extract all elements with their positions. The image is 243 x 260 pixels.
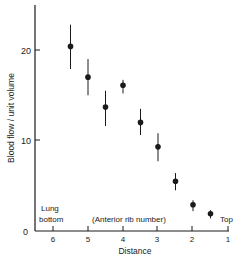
y-axis-label: Blood flow / unit volume: [6, 73, 16, 163]
x-ticks: [53, 226, 228, 231]
data-point: [173, 173, 179, 190]
point-marker: [103, 104, 109, 110]
x-tick-label-2: 2: [190, 235, 195, 244]
lung-bottom-label-line1: Lung: [41, 204, 59, 213]
data-point: [190, 200, 196, 211]
data-point: [68, 25, 74, 69]
lung-bottom-label-line2: bottom: [39, 215, 64, 224]
point-marker: [68, 44, 74, 50]
data-point: [85, 59, 91, 95]
x-tick-label-6: 6: [51, 235, 56, 244]
y-tick-label-20: 20: [21, 46, 31, 56]
blood-flow-chart: 0 10 20 6 5 4 3 2 1 Distance Blood flow …: [0, 0, 243, 260]
y-ticks: [35, 50, 40, 140]
y-tick-label-0: 0: [23, 227, 28, 237]
data-point: [138, 109, 144, 135]
x-tick-label-1: 1: [226, 235, 231, 244]
x-axis-label: Distance: [118, 246, 151, 256]
y-tick-label-10: 10: [21, 136, 31, 146]
data-points: [68, 25, 214, 219]
x-tick-label-3: 3: [155, 235, 160, 244]
x-tick-label-4: 4: [121, 235, 126, 244]
point-marker: [208, 211, 214, 217]
point-marker: [85, 74, 91, 80]
data-point: [155, 133, 161, 161]
point-marker: [190, 202, 196, 208]
lung-top-label: Top: [220, 215, 233, 224]
point-marker: [173, 178, 179, 184]
chart-svg: 0 10 20 6 5 4 3 2 1 Distance Blood flow …: [0, 0, 243, 260]
data-point: [120, 80, 126, 94]
point-marker: [138, 120, 144, 126]
data-point: [103, 91, 109, 126]
data-point: [208, 210, 214, 218]
x-tick-label-5: 5: [86, 235, 91, 244]
point-marker: [120, 82, 126, 88]
rib-number-note: (Anterior rib number): [92, 215, 166, 224]
point-marker: [155, 144, 161, 150]
